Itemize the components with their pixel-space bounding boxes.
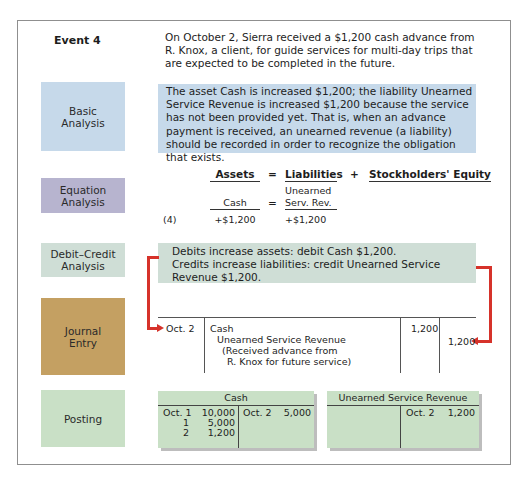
t-account-title: Cash	[158, 391, 314, 406]
label-journal-entry: Journal Entry	[41, 298, 125, 375]
label-text: Journal Entry	[58, 325, 108, 349]
equation-assets-value: +$1,200	[210, 214, 260, 225]
label-posting: Posting	[41, 390, 125, 447]
equation-ref: (4)	[163, 214, 176, 225]
label-debit-credit-analysis: Debit–Credit Analysis	[41, 243, 125, 277]
event-description: On October 2, Sierra received a $1,200 c…	[165, 31, 485, 71]
equation-liab-sub-line2: Serv. Rev.	[285, 197, 337, 210]
journal-memo-line-2: R. Knox for future service)	[227, 356, 351, 367]
label-text: Basic Analysis	[53, 105, 113, 129]
t-debit-amount: 1,200	[194, 428, 235, 439]
label-equation-analysis: Equation Analysis	[41, 178, 125, 213]
journal-debit-account: Cash	[210, 323, 233, 334]
debit-credit-line-3: Revenue $1,200.	[172, 271, 472, 284]
debit-credit-line-1: Debits increase assets: debit Cash $1,20…	[172, 245, 472, 258]
equation-plus-sign: +	[350, 168, 359, 180]
equation-equity-header: Stockholders' Equity	[369, 168, 491, 182]
label-text: Equation Analysis	[53, 184, 113, 208]
journal-memo-line-1: (Received advance from	[222, 345, 337, 356]
t-credit-date: Oct. 2	[406, 408, 435, 419]
equation-liab-sub-line1: Unearned	[285, 185, 331, 196]
t-debit-date: 2	[183, 428, 189, 439]
journal-debit-amount: 1,200	[411, 323, 438, 334]
t-account-cash: Cash Oct. 1 10,000 1 5,000 2 1,200 Oct. …	[158, 391, 314, 448]
equation-equals-sign: =	[268, 168, 277, 180]
equation-assets-header: Assets	[210, 168, 260, 182]
debit-credit-line-2: Credits increase liabilities: credit Une…	[172, 258, 472, 271]
equation-sub-equals: =	[268, 197, 277, 209]
t-credit-amount: 5,000	[273, 408, 311, 419]
debit-credit-text: Debits increase assets: debit Cash $1,20…	[172, 245, 472, 284]
journal-date: Oct. 2	[166, 323, 195, 334]
journal-credit-amount: 1,200	[448, 336, 475, 347]
label-basic-analysis: Basic Analysis	[41, 82, 125, 151]
equation-liabilities-value: +$1,200	[285, 214, 326, 225]
t-account-unearned-service-revenue: Unearned Service Revenue Oct. 2 1,200	[327, 391, 479, 448]
label-text: Posting	[64, 413, 102, 425]
arrow-right-icon	[157, 324, 164, 332]
equation-cash-sub: Cash	[210, 197, 260, 210]
equation-liabilities-header: Liabilities	[285, 168, 337, 182]
t-credit-date: Oct. 2	[243, 408, 272, 419]
event-title: Event 4	[54, 34, 101, 47]
basic-analysis-text: The asset Cash is increased $1,200; the …	[166, 85, 476, 164]
label-text: Debit–Credit Analysis	[45, 248, 121, 272]
t-account-title: Unearned Service Revenue	[327, 391, 479, 406]
t-credit-amount: 1,200	[437, 408, 475, 419]
journal-credit-account: Unearned Service Revenue	[217, 334, 346, 345]
